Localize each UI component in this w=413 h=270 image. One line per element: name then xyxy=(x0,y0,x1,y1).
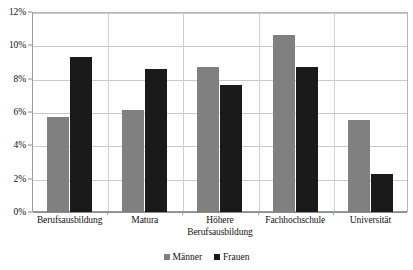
bar xyxy=(122,110,144,212)
y-axis-tick-label: 4% xyxy=(14,140,26,150)
x-axis-tick-mark xyxy=(333,212,334,215)
x-axis-tick-label: Höhere Berufsausbildung xyxy=(182,214,257,238)
bar-group xyxy=(182,12,257,212)
x-axis-tick-mark xyxy=(258,212,259,215)
legend-swatch-icon xyxy=(164,254,170,260)
gridline xyxy=(33,212,407,213)
bar xyxy=(70,57,92,212)
chart-legend: MännerFrauen xyxy=(0,252,413,262)
x-axis: BerufsausbildungMaturaHöhere Berufsausbi… xyxy=(32,214,408,248)
y-axis-tick-label: 10% xyxy=(9,40,26,50)
y-axis-tick-label: 0% xyxy=(14,207,26,217)
bar xyxy=(273,35,295,212)
bar xyxy=(197,67,219,212)
legend-label: Frauen xyxy=(223,252,249,262)
bar-group xyxy=(107,12,182,212)
bar-group xyxy=(333,12,408,212)
bar xyxy=(296,67,318,212)
y-axis-tick-label: 2% xyxy=(14,174,26,184)
x-axis-tick-label: Matura xyxy=(107,214,182,226)
y-axis-tick-label: 12% xyxy=(9,7,26,17)
x-axis-tick-mark xyxy=(182,212,183,215)
bar-chart-figure: 0%2%4%6%8%10%12% BerufsausbildungMaturaH… xyxy=(0,0,413,270)
bar xyxy=(220,85,242,212)
bar xyxy=(348,120,370,212)
legend-label: Männer xyxy=(173,252,203,262)
bar xyxy=(371,174,393,212)
bar-group xyxy=(32,12,107,212)
legend-swatch-icon xyxy=(214,254,220,260)
x-axis-tick-mark xyxy=(107,212,108,215)
bar xyxy=(145,69,167,212)
bar xyxy=(47,117,69,212)
y-axis-tick-label: 6% xyxy=(14,107,26,117)
x-axis-tick-label: Berufsausbildung xyxy=(32,214,107,226)
legend-entry[interactable]: Männer xyxy=(164,252,203,262)
x-axis-tick-label: Universität xyxy=(333,214,408,226)
legend-entry[interactable]: Frauen xyxy=(214,252,249,262)
y-axis-tick-label: 8% xyxy=(14,74,26,84)
y-axis: 0%2%4%6%8%10%12% xyxy=(0,12,32,212)
bar-group xyxy=(258,12,333,212)
bar-series-container xyxy=(32,12,408,212)
x-axis-tick-label: Fachhochschule xyxy=(258,214,333,226)
